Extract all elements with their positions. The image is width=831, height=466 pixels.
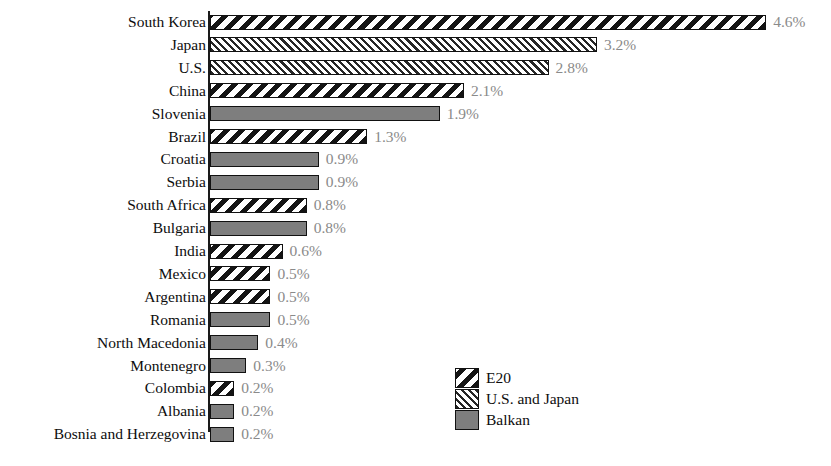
- legend-label: U.S. and Japan: [486, 389, 579, 409]
- category-label: Montenegro: [0, 355, 206, 377]
- bar-row: Romania0.5%: [0, 309, 831, 331]
- bar-row: Croatia0.9%: [0, 148, 831, 170]
- bar-value-label: 3.2%: [604, 34, 636, 56]
- bar: [210, 381, 234, 396]
- bar-fill-balkan: [210, 152, 319, 167]
- bar-value-label: 0.2%: [241, 400, 273, 422]
- bar-row: U.S.2.8%: [0, 57, 831, 79]
- bar-fill-e20: [210, 15, 766, 30]
- legend-swatch-balkan: [455, 410, 479, 430]
- bar: [210, 335, 258, 350]
- bar-fill-e20: [210, 266, 270, 281]
- bar-value-label: 0.2%: [241, 423, 273, 445]
- bar: [210, 312, 270, 327]
- bar-fill-e20: [210, 381, 234, 396]
- bar: [210, 404, 234, 419]
- bar: [210, 266, 270, 281]
- category-label: Albania: [0, 400, 206, 422]
- bar: [210, 83, 464, 98]
- bar: [210, 15, 766, 30]
- category-label: Slovenia: [0, 103, 206, 125]
- category-label: Serbia: [0, 171, 206, 193]
- legend-label: Balkan: [486, 410, 530, 430]
- bar: [210, 427, 234, 442]
- legend-item: U.S. and Japan: [455, 389, 685, 409]
- bar-value-label: 0.4%: [265, 332, 297, 354]
- bar-fill-e20: [210, 129, 367, 144]
- bar-value-label: 0.9%: [326, 171, 358, 193]
- legend-label: E20: [486, 368, 511, 388]
- legend-swatch-e20: [455, 368, 479, 388]
- bar-fill-balkan: [210, 175, 319, 190]
- bar-fill-e20: [210, 83, 464, 98]
- bar-row: Bosnia and Herzegovina0.2%: [0, 423, 831, 445]
- bar-value-label: 2.1%: [471, 80, 503, 102]
- bar-row: Mexico0.5%: [0, 263, 831, 285]
- bar-value-label: 0.9%: [326, 148, 358, 170]
- bar-row: Colombia0.2%: [0, 377, 831, 399]
- bar-row: South Korea4.6%: [0, 11, 831, 33]
- bar-value-label: 0.8%: [314, 194, 346, 216]
- category-label: China: [0, 80, 206, 102]
- bar-row: Japan3.2%: [0, 34, 831, 56]
- category-label: North Macedonia: [0, 332, 206, 354]
- category-label: Mexico: [0, 263, 206, 285]
- bar: [210, 289, 270, 304]
- bar-row: North Macedonia0.4%: [0, 332, 831, 354]
- bar-row: Albania0.2%: [0, 400, 831, 422]
- bar-value-label: 2.8%: [556, 57, 588, 79]
- bar-value-label: 4.6%: [773, 11, 805, 33]
- bar-series-group: South Korea4.6%Japan3.2%U.S.2.8%China2.1…: [0, 0, 831, 440]
- bar: [210, 152, 319, 167]
- bar-value-label: 1.3%: [374, 126, 406, 148]
- category-label: South Africa: [0, 194, 206, 216]
- bar-row: India0.6%: [0, 240, 831, 262]
- bar-value-label: 0.5%: [277, 309, 309, 331]
- bar-fill-balkan: [210, 221, 307, 236]
- bar-row: South Africa0.8%: [0, 194, 831, 216]
- category-label: Romania: [0, 309, 206, 331]
- legend-swatch-u-s-and-japan: [455, 389, 479, 409]
- bar-fill-u-s-and-japan: [210, 60, 549, 75]
- bar-fill-balkan: [210, 404, 234, 419]
- bar-value-label: 0.3%: [253, 355, 285, 377]
- chart-legend: E20U.S. and JapanBalkan: [455, 368, 685, 432]
- bar-row: Montenegro0.3%: [0, 355, 831, 377]
- bar-value-label: 0.5%: [277, 286, 309, 308]
- category-label: South Korea: [0, 11, 206, 33]
- bar-fill-balkan: [210, 106, 440, 121]
- bar: [210, 60, 549, 75]
- bar: [210, 37, 597, 52]
- bar-fill-e20: [210, 244, 283, 259]
- bar: [210, 106, 440, 121]
- bar-value-label: 0.8%: [314, 217, 346, 239]
- category-label: Japan: [0, 34, 206, 56]
- bar-fill-balkan: [210, 312, 270, 327]
- legend-item: Balkan: [455, 410, 685, 430]
- bar-fill-balkan: [210, 335, 258, 350]
- bar: [210, 244, 283, 259]
- bar-fill-balkan: [210, 358, 246, 373]
- bar-fill-e20: [210, 289, 270, 304]
- category-label: Argentina: [0, 286, 206, 308]
- bar-row: Argentina0.5%: [0, 286, 831, 308]
- bar-row: Slovenia1.9%: [0, 103, 831, 125]
- bar: [210, 198, 307, 213]
- category-label: Croatia: [0, 148, 206, 170]
- bar-row: Serbia0.9%: [0, 171, 831, 193]
- category-label: Colombia: [0, 377, 206, 399]
- bar-fill-u-s-and-japan: [210, 37, 597, 52]
- category-label: Bosnia and Herzegovina: [0, 423, 206, 445]
- category-label: Brazil: [0, 126, 206, 148]
- bar-fill-balkan: [210, 427, 234, 442]
- bar: [210, 129, 367, 144]
- bar-row: China2.1%: [0, 80, 831, 102]
- bar: [210, 358, 246, 373]
- legend-item: E20: [455, 368, 685, 388]
- category-label: Bulgaria: [0, 217, 206, 239]
- bar-value-label: 0.6%: [290, 240, 322, 262]
- bar-fill-e20: [210, 198, 307, 213]
- bar-value-label: 1.9%: [447, 103, 479, 125]
- category-label: U.S.: [0, 57, 206, 79]
- bar-value-label: 0.5%: [277, 263, 309, 285]
